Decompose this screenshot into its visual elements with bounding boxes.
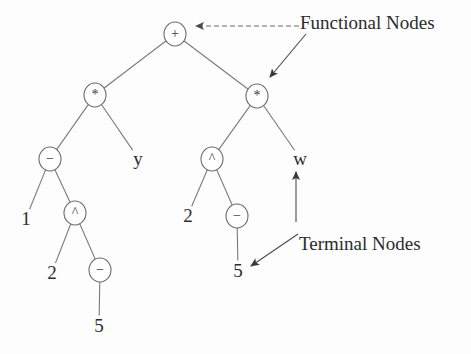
terminal-label-5b: 5 <box>233 261 243 280</box>
tree-edge <box>237 228 238 261</box>
tree-edge <box>57 104 89 149</box>
tree-edge <box>184 41 248 89</box>
tree-graphics <box>0 0 471 354</box>
expression-tree-diagram: +**−^−^−y125w25 Functional Nodes Termina… <box>0 0 471 354</box>
tree-edge <box>219 105 251 149</box>
arrow-functional-to-mulright <box>270 34 306 77</box>
node-label-mul-left: * <box>92 88 99 102</box>
tree-edge <box>104 41 166 88</box>
terminal-label-1: 1 <box>21 209 31 228</box>
terminal-label-w: w <box>293 149 307 168</box>
tree-edge <box>192 170 208 207</box>
tree-edge <box>101 105 132 151</box>
node-label-mul-right: * <box>254 89 261 103</box>
terminal-label-2b: 2 <box>183 206 193 225</box>
tree-edges-group <box>30 41 295 316</box>
tree-edge <box>55 169 70 202</box>
terminal-label-2a: 2 <box>47 263 57 282</box>
terminal-label-5a: 5 <box>94 316 104 335</box>
node-label-pow-right: ^ <box>209 152 216 166</box>
node-label-minus-l1: − <box>46 152 54 166</box>
tree-edge <box>217 170 233 206</box>
node-label-minus-r1: − <box>233 209 241 223</box>
annotation-functional-nodes: Functional Nodes <box>300 12 435 34</box>
node-label-pow-left: ^ <box>72 206 79 220</box>
terminal-label-y: y <box>133 149 143 168</box>
node-label-minus-l2: − <box>96 263 104 277</box>
annotation-terminal-nodes: Terminal Nodes <box>299 233 421 255</box>
arrow-terminal-to-5b <box>251 234 298 266</box>
tree-edge <box>99 282 100 316</box>
tree-edge <box>80 224 96 260</box>
tree-nodes-group <box>39 22 268 282</box>
tree-edge <box>264 105 295 150</box>
node-label-plus: + <box>171 27 179 41</box>
tree-edge <box>30 170 46 210</box>
tree-edge <box>55 224 70 263</box>
